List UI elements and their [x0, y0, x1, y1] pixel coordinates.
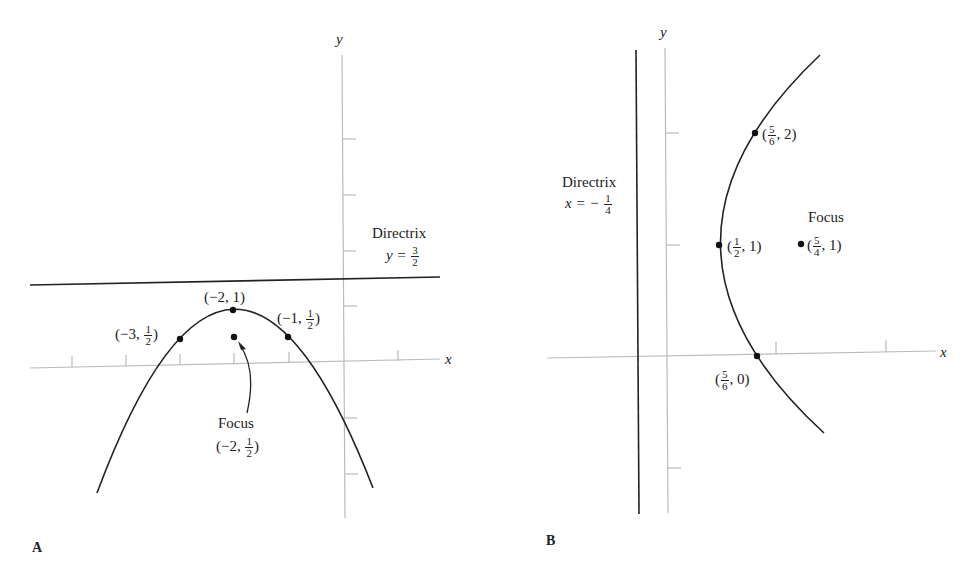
panel-a-letter: A [32, 540, 42, 556]
panel-b-upper-point-label: (56, 2) [762, 124, 797, 147]
panel-a-focus-arrow [240, 345, 251, 413]
panel-b-graph [547, 48, 936, 514]
panel-b-x-intercept-point [754, 353, 760, 359]
panel-b-focus-point [798, 241, 804, 247]
panel-a-x-axis [30, 359, 440, 368]
panel-b-directrix-line [636, 50, 639, 514]
panel-b-y-axis-label: y [660, 25, 667, 40]
panel-a-right-point [285, 334, 291, 340]
panel-a-left-point [177, 336, 183, 342]
panel-a-focus-arrowhead [238, 341, 246, 350]
panel-a-x-axis-label: x [445, 352, 452, 367]
panel-b-directrix-equation: x = − 14 [565, 193, 613, 216]
panel-a-vertex-point [230, 307, 236, 313]
panel-a-directrix-title: Directrix [372, 226, 426, 241]
panel-b-vertex-label: (12, 1) [727, 236, 762, 259]
panel-b-y-axis [665, 48, 668, 513]
panel-a-right-point-label: (−1, 12) [277, 308, 320, 331]
panel-a-directrix-line [30, 277, 440, 285]
panel-a-focus-coords: (−2, 12) [216, 436, 259, 459]
panel-b-vertex-point [716, 242, 722, 248]
panel-a-vertex-label: (−2, 1) [204, 290, 245, 305]
panel-a-y-axis [342, 55, 345, 518]
panel-a-focus-point [231, 334, 237, 340]
panel-b-directrix-title: Directrix [562, 175, 616, 190]
panel-b-focus-coords: (54, 1) [807, 235, 842, 258]
panel-a-y-axis-label: y [336, 32, 343, 47]
panel-b-upper-point [752, 130, 758, 136]
figure-canvas [0, 0, 966, 575]
panel-b-y-ticks [666, 133, 681, 468]
panel-b-letter: B [546, 533, 555, 549]
panel-a-x-ticks [72, 350, 398, 367]
panel-b-focus-title: Focus [808, 210, 844, 225]
panel-a-directrix-equation: y = 32 [386, 245, 420, 268]
panel-b-x-axis-label: x [940, 345, 947, 360]
panel-b-x-intercept-label: (56, 0) [715, 369, 750, 392]
panel-b-x-axis [547, 351, 936, 358]
panel-a-focus-title: Focus [218, 416, 254, 431]
panel-a-left-point-label: (−3, 12) [115, 324, 158, 347]
